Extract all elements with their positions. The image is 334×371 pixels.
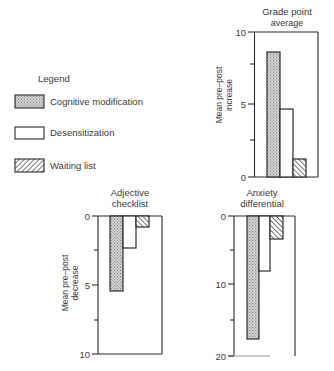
legend: Legend Cognitive modification Desensitiz… — [15, 73, 143, 172]
y-tick-label: 10 — [235, 27, 246, 38]
bar-waiting-list — [270, 216, 283, 239]
bar-cognitive-modification — [247, 216, 259, 339]
legend-label: Desensitization — [50, 127, 114, 138]
y-tick-label: 5 — [85, 280, 90, 291]
hatch-swatch-icon — [15, 159, 44, 172]
panel-adjective-checklist: Adjective checklist Mean pre–post decrea… — [60, 187, 162, 360]
stipple-swatch-icon — [15, 95, 44, 108]
y-tick-label: 5 — [241, 99, 246, 110]
svg-text:increase: increase — [224, 79, 234, 111]
bar-cognitive-modification — [110, 216, 123, 291]
legend-label: Waiting list — [50, 160, 96, 171]
legend-item-desensitization: Desensitization — [15, 127, 114, 139]
panel-grade-point-average: Grade point average Mean pre–post increa… — [214, 6, 318, 183]
bar-desensitization — [259, 216, 270, 271]
panel-title: Anxiety — [246, 187, 277, 198]
legend-label: Cognitive modification — [50, 96, 143, 107]
bar-cognitive-modification — [267, 52, 280, 177]
y-axis-label: Mean pre–post increase — [214, 66, 234, 123]
legend-title: Legend — [38, 73, 70, 84]
panel-anxiety-differential: Anxiety differential 0 10 20 — [215, 187, 295, 362]
figure: Legend Cognitive modification Desensitiz… — [0, 0, 334, 371]
bar-waiting-list — [293, 159, 306, 177]
svg-text:Mean pre–post: Mean pre–post — [60, 254, 70, 311]
panel-title: average — [271, 18, 304, 28]
bars — [267, 52, 306, 177]
panel-title: Grade point — [262, 6, 312, 17]
bars — [247, 216, 283, 339]
bars — [110, 216, 149, 291]
y-tick-label: 0 — [241, 172, 246, 183]
y-tick-label: 0 — [221, 211, 226, 222]
svg-text:decrease: decrease — [70, 265, 80, 300]
y-tick-label: 0 — [85, 211, 90, 222]
y-tick-label: 10 — [215, 279, 226, 290]
legend-item-cognitive: Cognitive modification — [15, 95, 143, 108]
panel-title: Adjective — [111, 187, 150, 198]
bar-desensitization — [280, 109, 293, 177]
bar-waiting-list — [136, 216, 149, 227]
blank-swatch-icon — [15, 127, 44, 139]
panel-title: checklist — [112, 198, 149, 209]
y-axis-label: Mean pre–post decrease — [60, 254, 80, 311]
panel-title: differential — [240, 198, 284, 209]
bar-desensitization — [123, 216, 136, 248]
legend-item-waiting-list: Waiting list — [15, 159, 96, 172]
y-tick-label: 20 — [215, 351, 226, 362]
y-tick-label: 10 — [79, 349, 90, 360]
svg-text:Mean pre–post: Mean pre–post — [214, 66, 224, 123]
